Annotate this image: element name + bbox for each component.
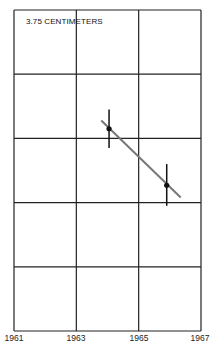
data-point <box>106 126 111 131</box>
grid-lines <box>14 10 201 331</box>
x-tick-1961: 1961 <box>5 333 24 343</box>
chart-title: 3.75 CENTIMETERS <box>26 17 103 26</box>
chart-plot <box>0 0 212 358</box>
data-points <box>106 110 169 206</box>
x-tick-1963: 1963 <box>67 333 86 343</box>
x-tick-1967: 1967 <box>191 333 210 343</box>
x-tick-1965: 1965 <box>130 333 149 343</box>
data-point <box>164 183 169 188</box>
